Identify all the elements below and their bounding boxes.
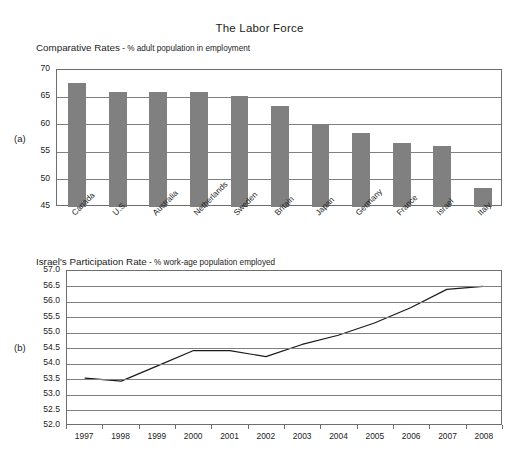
chart-a-title-light: - % adult population in employment bbox=[120, 44, 250, 53]
y-axis-tick-label: 50 bbox=[22, 173, 50, 183]
y-axis-tick-label: 65 bbox=[22, 90, 50, 100]
x-axis-tick-mark bbox=[502, 425, 503, 429]
gridline bbox=[67, 302, 501, 303]
y-axis-tick-label: 45 bbox=[22, 200, 50, 210]
y-axis-tick-label: 56.5 bbox=[26, 280, 60, 290]
x-axis-tick-label: 2004 bbox=[319, 431, 359, 441]
x-axis-tick-mark bbox=[248, 425, 249, 429]
y-axis-tick-label: 53.0 bbox=[26, 388, 60, 398]
bar-chart-plot-area bbox=[56, 69, 502, 206]
x-axis-tick-label: 1999 bbox=[137, 431, 177, 441]
bar bbox=[190, 92, 208, 207]
x-axis-tick-mark bbox=[393, 425, 394, 429]
y-axis-tick-label: 55.5 bbox=[26, 311, 60, 321]
x-axis-tick-mark bbox=[429, 425, 430, 429]
chart-a-title-strong: Comparative Rates bbox=[36, 42, 120, 53]
bar bbox=[271, 106, 289, 207]
x-axis-tick-mark bbox=[211, 425, 212, 429]
x-axis-tick-label: 2005 bbox=[355, 431, 395, 441]
chart-b-title-light: - % work-age population employed bbox=[147, 258, 275, 267]
x-axis-tick-label: 2000 bbox=[173, 431, 213, 441]
x-axis-tick-mark bbox=[139, 425, 140, 429]
chart-a-title: Comparative Rates - % adult population i… bbox=[36, 42, 250, 53]
x-axis-tick-mark bbox=[102, 425, 103, 429]
x-axis-tick-label: 1998 bbox=[101, 431, 141, 441]
x-axis-tick-mark bbox=[357, 425, 358, 429]
y-axis-tick-label: 55.0 bbox=[26, 326, 60, 336]
bar bbox=[68, 83, 86, 207]
gridline bbox=[67, 410, 501, 411]
figure-labor-force: The Labor Force (a) (b) Comparative Rate… bbox=[0, 0, 519, 467]
y-axis-tick-label: 60 bbox=[22, 118, 50, 128]
gridline bbox=[67, 286, 501, 287]
x-axis-tick-label: 1997 bbox=[64, 431, 104, 441]
gridline bbox=[67, 364, 501, 365]
x-axis-tick-label: 2002 bbox=[246, 431, 286, 441]
gridline bbox=[67, 348, 501, 349]
chart-b-title: Israel's Participation Rate - % work-age… bbox=[36, 256, 275, 267]
gridline bbox=[67, 333, 501, 334]
line-chart-plot-area bbox=[66, 270, 502, 425]
x-axis-tick-mark bbox=[66, 425, 67, 429]
x-axis-tick-label: 2008 bbox=[464, 431, 504, 441]
panel-label-a: (a) bbox=[14, 133, 26, 144]
y-axis-tick-label: 52.0 bbox=[26, 419, 60, 429]
gridline bbox=[67, 317, 501, 318]
y-axis-tick-label: 70 bbox=[22, 63, 50, 73]
x-axis-tick-mark bbox=[175, 425, 176, 429]
x-axis-tick-label: 2007 bbox=[428, 431, 468, 441]
y-axis-tick-label: 54.5 bbox=[26, 342, 60, 352]
panel-label-b: (b) bbox=[14, 342, 26, 353]
bar bbox=[109, 92, 127, 207]
y-axis-tick-label: 53.5 bbox=[26, 373, 60, 383]
x-axis-tick-label: 2006 bbox=[391, 431, 431, 441]
figure-title: The Labor Force bbox=[0, 22, 519, 34]
y-axis-tick-label: 54.0 bbox=[26, 357, 60, 367]
x-axis-tick-mark bbox=[284, 425, 285, 429]
y-axis-tick-label: 55 bbox=[22, 145, 50, 155]
bar bbox=[231, 96, 249, 207]
gridline bbox=[67, 379, 501, 380]
gridline bbox=[67, 395, 501, 396]
x-axis-tick-mark bbox=[466, 425, 467, 429]
y-axis-tick-label: 57.0 bbox=[26, 264, 60, 274]
x-axis-tick-mark bbox=[320, 425, 321, 429]
x-axis-tick-label: 2003 bbox=[282, 431, 322, 441]
bar bbox=[149, 92, 167, 207]
x-axis-tick-label: 2001 bbox=[210, 431, 250, 441]
y-axis-tick-label: 56.0 bbox=[26, 295, 60, 305]
bar bbox=[312, 125, 330, 207]
y-axis-tick-label: 52.5 bbox=[26, 404, 60, 414]
